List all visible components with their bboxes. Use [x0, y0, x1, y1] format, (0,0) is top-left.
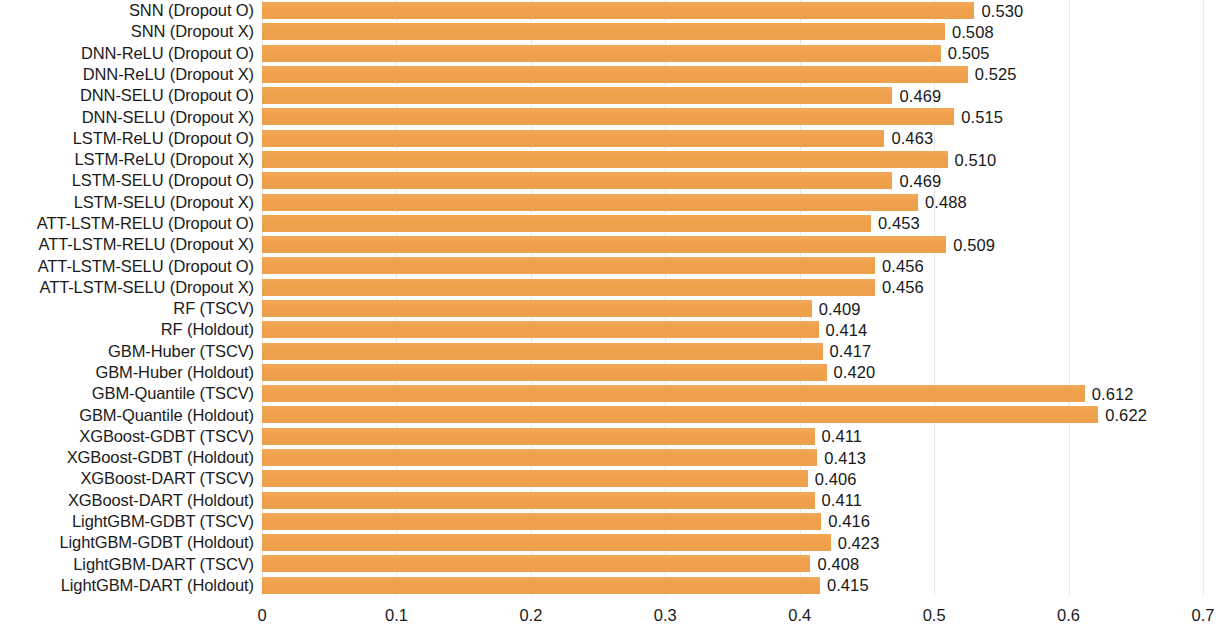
bar-value-label: 0.515 [961, 108, 1003, 127]
bar[interactable] [262, 385, 1085, 402]
bar-row[interactable]: 0.508 [262, 21, 1203, 42]
category-label: RF (TSCV) [173, 298, 254, 319]
category-label: ATT-LSTM-SELU (Dropout X) [40, 277, 255, 298]
category-label: DNN-ReLU (Dropout X) [83, 64, 254, 85]
bar-row[interactable]: 0.406 [262, 468, 1203, 489]
bar-value-label: 0.463 [891, 129, 933, 148]
bar-value-label: 0.488 [925, 193, 967, 212]
bar-row[interactable]: 0.612 [262, 383, 1203, 404]
bar-value-label: 0.453 [878, 214, 920, 233]
category-label: ATT-LSTM-RELU (Dropout O) [37, 213, 254, 234]
bar-row[interactable]: 0.469 [262, 170, 1203, 191]
bar-row[interactable]: 0.463 [262, 128, 1203, 149]
bar-value-label: 0.411 [822, 491, 863, 510]
bar-row[interactable]: 0.420 [262, 362, 1203, 383]
bar[interactable] [262, 87, 892, 104]
x-tick-label: 0.4 [788, 606, 811, 625]
bar[interactable] [262, 364, 827, 381]
category-label: RF (Holdout) [161, 319, 254, 340]
category-label: GBM-Huber (Holdout) [95, 362, 254, 383]
bar[interactable] [262, 257, 875, 274]
bar-value-label: 0.420 [834, 363, 876, 382]
bar-row[interactable]: 0.488 [262, 192, 1203, 213]
bar-value-label: 0.456 [882, 278, 924, 297]
bar[interactable] [262, 194, 918, 211]
category-label: DNN-SELU (Dropout O) [80, 85, 254, 106]
bar-value-label: 0.622 [1105, 406, 1147, 425]
bar-row[interactable]: 0.622 [262, 404, 1203, 425]
bar[interactable] [262, 343, 823, 360]
bar[interactable] [262, 108, 954, 125]
bar[interactable] [262, 470, 808, 487]
bar[interactable] [262, 66, 968, 83]
bar-row[interactable]: 0.505 [262, 43, 1203, 64]
category-axis: SNN (Dropout O)SNN (Dropout X)DNN-ReLU (… [0, 0, 254, 596]
bar-value-label: 0.415 [827, 576, 869, 595]
bar-row[interactable]: 0.530 [262, 0, 1203, 21]
bar-row[interactable]: 0.456 [262, 277, 1203, 298]
bar[interactable] [262, 2, 974, 19]
bar[interactable] [262, 215, 871, 232]
bar-value-label: 0.525 [975, 65, 1017, 84]
plot-area: 0.5300.5080.5050.5250.4690.5150.4630.510… [262, 0, 1203, 596]
bar-row[interactable]: 0.417 [262, 341, 1203, 362]
bar[interactable] [262, 151, 948, 168]
bar[interactable] [262, 279, 875, 296]
category-label: ATT-LSTM-RELU (Dropout X) [39, 234, 254, 255]
bar-row[interactable]: 0.509 [262, 234, 1203, 255]
bar-value-label: 0.408 [817, 555, 859, 574]
bar-row[interactable]: 0.510 [262, 149, 1203, 170]
bar[interactable] [262, 45, 941, 62]
x-tick-label: 0.7 [1192, 606, 1215, 625]
category-label: LightGBM-DART (TSCV) [73, 553, 254, 574]
bar-row[interactable]: 0.408 [262, 553, 1203, 574]
bar-row[interactable]: 0.525 [262, 64, 1203, 85]
bar-row[interactable]: 0.453 [262, 213, 1203, 234]
bar[interactable] [262, 513, 821, 530]
x-tick-label: 0.2 [519, 606, 542, 625]
bar-value-label: 0.505 [948, 44, 990, 63]
category-label: XGBoost-GDBT (Holdout) [67, 447, 254, 468]
category-label: LightGBM-GDBT (Holdout) [59, 532, 254, 553]
bar[interactable] [262, 492, 815, 509]
category-label: LightGBM-GDBT (TSCV) [72, 511, 254, 532]
bar[interactable] [262, 23, 945, 40]
category-label: LSTM-SELU (Dropout O) [72, 170, 254, 191]
category-label: DNN-SELU (Dropout X) [82, 106, 254, 127]
x-tick-label: 0.3 [654, 606, 677, 625]
bar-row[interactable]: 0.515 [262, 106, 1203, 127]
bar-row[interactable]: 0.469 [262, 85, 1203, 106]
bar-row[interactable]: 0.414 [262, 319, 1203, 340]
bar-value-label: 0.423 [838, 533, 880, 552]
bar-value-label: 0.417 [830, 342, 872, 361]
bar-row[interactable]: 0.456 [262, 255, 1203, 276]
bar-chart: 0.5300.5080.5050.5250.4690.5150.4630.510… [0, 0, 1231, 634]
bar-value-label: 0.456 [882, 257, 924, 276]
bar[interactable] [262, 406, 1098, 423]
bar-row[interactable]: 0.416 [262, 511, 1203, 532]
bar-row[interactable]: 0.413 [262, 447, 1203, 468]
bar-value-label: 0.508 [952, 22, 994, 41]
x-tick-label: 0.6 [1057, 606, 1080, 625]
bar-value-label: 0.411 [822, 427, 863, 446]
x-tick-label: 0 [257, 606, 266, 625]
bar[interactable] [262, 428, 815, 445]
bar[interactable] [262, 555, 810, 572]
x-tick-label: 0.5 [923, 606, 946, 625]
bar[interactable] [262, 236, 946, 253]
bar[interactable] [262, 172, 892, 189]
gridline [1203, 0, 1204, 596]
bar[interactable] [262, 534, 831, 551]
bar[interactable] [262, 577, 820, 594]
bar[interactable] [262, 300, 812, 317]
bar[interactable] [262, 449, 817, 466]
bar-row[interactable]: 0.411 [262, 426, 1203, 447]
bar-value-label: 0.469 [899, 171, 941, 190]
bar-row[interactable]: 0.423 [262, 532, 1203, 553]
bar-row[interactable]: 0.411 [262, 490, 1203, 511]
bar[interactable] [262, 321, 819, 338]
bar[interactable] [262, 130, 884, 147]
bar-row[interactable]: 0.415 [262, 575, 1203, 596]
bar-row[interactable]: 0.409 [262, 298, 1203, 319]
category-label: GBM-Quantile (TSCV) [92, 383, 254, 404]
